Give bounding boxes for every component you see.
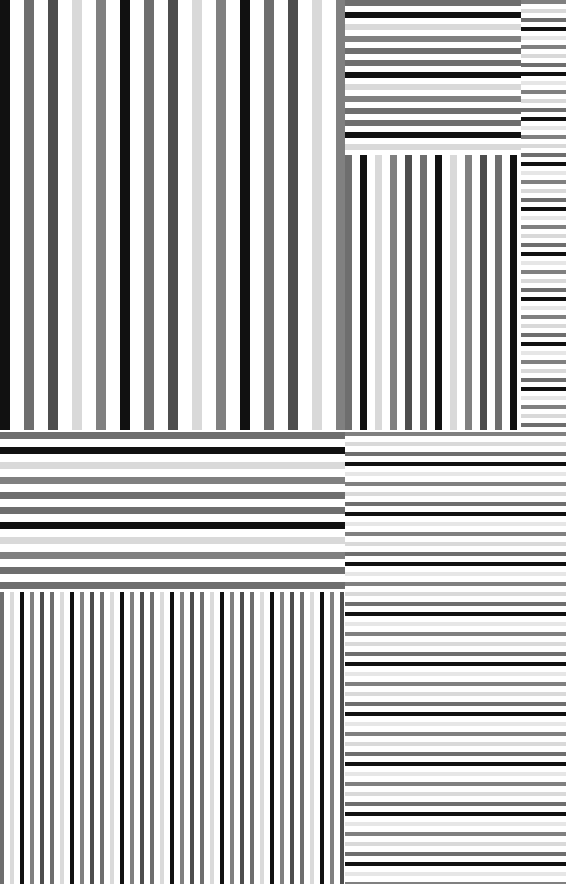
stripe-bar (0, 447, 345, 454)
stripe-bar (345, 532, 566, 536)
stripe-bar (48, 0, 58, 430)
stripe-bar (521, 171, 566, 175)
stripe-bar (168, 0, 178, 430)
stripe-bar (345, 155, 352, 430)
stripe-bar (0, 477, 345, 484)
stripe-bar (521, 207, 566, 211)
stripe-bar (345, 752, 566, 756)
stripe-bar (495, 155, 502, 430)
stripe-bar (521, 324, 566, 328)
stripe-bar (521, 351, 566, 355)
stripe-bar (521, 90, 566, 94)
stripe-bar (345, 832, 566, 836)
stripe-bar (405, 155, 412, 430)
stripe-bar (0, 537, 345, 544)
stripe-bar (280, 592, 284, 884)
stripe-bar (345, 502, 566, 506)
stripe-bar (0, 582, 345, 589)
stripe-bar (270, 592, 274, 884)
stripe-bar (345, 512, 566, 516)
stripe-bar (50, 592, 54, 884)
stripe-bar (390, 155, 397, 430)
stripe-bar (521, 243, 566, 247)
stripe-bar (345, 682, 566, 686)
stripe-bar (110, 592, 114, 884)
stripe-bar (345, 60, 521, 66)
stripe-bar (210, 592, 214, 884)
stripe-bar (521, 306, 566, 310)
stripe-bar (345, 612, 566, 616)
stripe-bar (220, 592, 224, 884)
stripe-bar (521, 81, 566, 85)
stripe-bar (240, 592, 244, 884)
stripe-bar (521, 225, 566, 229)
stripe-bar (450, 155, 457, 430)
stripe-bar (521, 198, 566, 202)
stripe-bar (521, 9, 566, 13)
stripe-bar (180, 592, 184, 884)
stripe-bar (144, 0, 154, 430)
stripe-bar (521, 54, 566, 58)
stripe-bar (0, 522, 345, 529)
stripe-bar (521, 360, 566, 364)
stripe-bar (521, 387, 566, 391)
stripe-bar (290, 592, 294, 884)
stripe-bar (345, 852, 566, 856)
stripe-bar (521, 108, 566, 112)
stripe-bar (521, 45, 566, 49)
stripe-bar (345, 772, 566, 776)
stripe-bar (150, 592, 154, 884)
stripe-bar (345, 96, 521, 102)
stripe-bar (375, 155, 382, 430)
stripe-bar (345, 0, 521, 6)
stripe-bar (345, 572, 566, 576)
stripe-bar (312, 0, 322, 430)
stripe-bar (0, 492, 345, 499)
stripe-bar (320, 592, 324, 884)
stripe-bar (345, 482, 566, 486)
stripe-bar (345, 652, 566, 656)
stripe-bar (510, 155, 517, 430)
stripe-bar (192, 0, 202, 430)
stripe-bar (345, 782, 566, 786)
stripe-bar (521, 261, 566, 265)
stripe-bar (0, 0, 10, 430)
stripe-bar (521, 72, 566, 76)
stripe-bar (345, 144, 521, 150)
stripe-bar (288, 0, 298, 430)
stripe-bar (345, 732, 566, 736)
stripe-bar (345, 822, 566, 826)
stripe-bar (345, 432, 566, 436)
stripe-bar (521, 414, 566, 418)
stripe-bar (435, 155, 442, 430)
stripe-bar (345, 562, 566, 566)
stripe-bar (521, 333, 566, 337)
stripe-bar (300, 592, 304, 884)
panel-top-left-wide-vertical-bars (0, 0, 345, 430)
stripe-bar (0, 552, 345, 559)
stripe-bar (345, 108, 521, 114)
stripe-bar (140, 592, 144, 884)
stripe-bar (521, 369, 566, 373)
stripe-bar (345, 552, 566, 556)
stripe-bar (345, 622, 566, 626)
stripe-bar (345, 722, 566, 726)
stripe-bar (345, 862, 566, 866)
stripe-bar (521, 405, 566, 409)
stripe-bar (345, 24, 521, 30)
stripe-bar (521, 279, 566, 283)
stripe-bar (260, 592, 264, 884)
stripe-bar (420, 155, 427, 430)
stripe-bar (521, 342, 566, 346)
stripe-bar (100, 592, 104, 884)
stripe-bar (24, 0, 34, 430)
stripe-bar (521, 234, 566, 238)
stripe-bar (345, 712, 566, 716)
stripe-bar (345, 602, 566, 606)
stripe-bar (465, 155, 472, 430)
panel-middle-left-horizontal-bands (0, 432, 345, 590)
stripe-bar (340, 592, 344, 884)
stripe-bar (310, 592, 314, 884)
stripe-bar (345, 592, 566, 596)
stripe-bar (345, 792, 566, 796)
